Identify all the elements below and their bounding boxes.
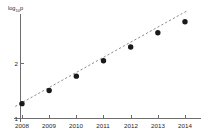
y-axis-title-base: log — [8, 5, 15, 11]
y-tick-label-1: 1 — [15, 115, 19, 122]
x-tick-label-2013: 2013 — [151, 122, 165, 129]
data-point-2013 — [155, 30, 160, 35]
x-tick-label-2008: 2008 — [15, 122, 29, 129]
chart-figure: log10p 1 2 2008 2009 2010 2011 2012 2013… — [0, 0, 205, 136]
x-tick-label-2014: 2014 — [178, 122, 192, 129]
data-point-2014 — [182, 19, 187, 24]
data-point-2008 — [19, 101, 24, 106]
y-axis-title-variable: p — [20, 5, 23, 11]
scatter-plot-svg: log10p 1 2 2008 2009 2010 2011 2012 2013… — [0, 0, 205, 136]
data-point-2010 — [74, 73, 79, 78]
x-tick-label-2009: 2009 — [42, 122, 56, 129]
data-point-2012 — [128, 44, 133, 49]
x-tick-label-2011: 2011 — [96, 122, 110, 129]
data-point-2009 — [46, 88, 51, 93]
y-tick-label-2: 2 — [15, 60, 19, 67]
x-tick-label-2010: 2010 — [69, 122, 83, 129]
x-tick-label-2012: 2012 — [124, 122, 138, 129]
data-point-2011 — [101, 58, 106, 63]
